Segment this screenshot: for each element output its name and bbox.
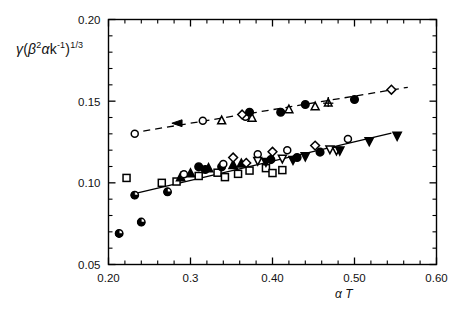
marker-open-triangle-up xyxy=(218,116,226,124)
x-tick-label: 0.60 xyxy=(425,272,447,284)
marker-open-triangle-down xyxy=(278,155,286,163)
x-tick-label: 0.40 xyxy=(261,272,283,284)
x-tick-label: 0.50 xyxy=(343,272,365,284)
plot-svg: 0.200.30.400.500.600.050.100.150.20 α T xyxy=(0,0,466,309)
series-upper-filled-circle xyxy=(246,96,359,116)
marker-open-diamond xyxy=(387,85,396,94)
figure-container: γ(β2αk-1)1/3 0.200.30.400.500.600.050.10… xyxy=(0,0,466,309)
x-tick-label: 0.3 xyxy=(183,272,199,284)
tick-labels: 0.200.30.400.500.600.050.100.150.20 xyxy=(78,14,448,284)
marker-filled-triangle-down xyxy=(301,153,309,161)
marker-filled-circle xyxy=(246,108,254,116)
marker-filled-circle xyxy=(351,96,359,104)
marker-open-square xyxy=(235,170,242,177)
series-upper-open-star xyxy=(323,97,333,107)
marker-half-filled-circle xyxy=(138,222,145,226)
x-axis-title: α T xyxy=(335,287,354,301)
marker-open-square xyxy=(195,172,202,179)
marker-filled-triangle-down xyxy=(289,156,297,164)
marker-open-square xyxy=(221,174,228,181)
marker-open-circle xyxy=(284,147,291,154)
marker-filled-triangle-down xyxy=(393,132,401,140)
marker-open-circle xyxy=(180,171,187,178)
marker-open-square xyxy=(279,167,286,174)
marker-open-circle xyxy=(199,117,206,124)
y-tick-label: 0.10 xyxy=(78,177,100,189)
marker-filled-circle xyxy=(277,108,285,116)
marker-open-square xyxy=(246,167,253,174)
marker-half-filled-circle xyxy=(164,192,171,196)
axis-frame xyxy=(109,20,437,265)
marker-open-square xyxy=(158,179,165,186)
series-lower-half-filled-circle xyxy=(115,188,171,237)
marker-open-diamond xyxy=(268,147,277,156)
x-axis-title-text: α T xyxy=(335,287,354,301)
marker-half-filled-circle xyxy=(115,233,122,237)
marker-filled-triangle-down xyxy=(365,138,373,146)
tick-marks xyxy=(109,20,437,265)
marker-open-circle xyxy=(220,161,227,168)
y-tick-label: 0.20 xyxy=(78,14,100,26)
y-tick-label: 0.15 xyxy=(78,96,100,108)
marker-open-circle xyxy=(344,136,351,143)
marker-filled-circle xyxy=(316,148,324,156)
marker-filled-circle xyxy=(201,166,209,174)
marker-open-circle xyxy=(131,130,138,137)
marker-open-square xyxy=(123,174,130,181)
marker-filled-circle xyxy=(302,101,310,109)
x-tick-label: 0.20 xyxy=(97,272,119,284)
series-upper-open-diamond xyxy=(238,85,396,119)
y-tick-label: 0.05 xyxy=(78,259,100,271)
fit-line-upper-dashed-fit xyxy=(131,87,407,133)
marker-open-square xyxy=(269,170,276,177)
marker-open-diamond xyxy=(229,153,238,162)
data-markers xyxy=(115,85,401,237)
